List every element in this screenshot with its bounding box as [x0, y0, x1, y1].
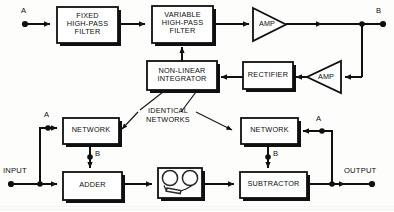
dot-tap-b-right [265, 154, 271, 160]
dot-junction-b-tap [359, 21, 365, 27]
wire-input-tap-to-network-left [40, 128, 57, 184]
label-nonlinear-integrator: NON-LINEAR INTEGRATOR [147, 67, 217, 83]
label-adder: ADDER [63, 181, 122, 189]
dot-terminal-a-top [22, 21, 28, 27]
label-network-left: NETWORK [63, 126, 119, 134]
dot-terminal-input [8, 181, 14, 187]
label-amp-top: AMP [253, 20, 281, 28]
scan-artifact [0, 206, 394, 207]
arrow-to-network-right [196, 112, 232, 130]
dot-terminal-b-top [380, 21, 386, 27]
dot-terminal-output [369, 181, 375, 187]
label-terminal-output: OUTPUT [344, 167, 376, 176]
label-tap-b-left: B [95, 150, 100, 159]
label-subtractor: SUBTRACTOR [240, 180, 307, 188]
label-terminal-input: INPUT [3, 167, 27, 176]
label-terminal-b-top: B [376, 7, 381, 16]
label-variable-hpf: VARIABLE HIGH-PASS FILTER [152, 11, 213, 36]
label-network-right: NETWORK [241, 126, 298, 134]
block-diagram: FIXED HIGH-PASS FILTER VARIABLE HIGH-PAS… [0, 0, 394, 212]
label-tap-a-left: A [44, 111, 49, 120]
label-tap-b-right: B [273, 150, 278, 159]
label-amp-feedback: AMP [312, 73, 340, 81]
label-rectifier: RECTIFIER [243, 71, 293, 79]
dot-tap-a-right [319, 128, 325, 134]
dot-junction-output-tap [329, 181, 335, 187]
scan-artifact [0, 209, 394, 210]
dot-tap-a-left [45, 125, 51, 131]
dot-tap-b-left [87, 154, 93, 160]
arrow-to-network-left [122, 112, 138, 129]
label-terminal-a-top: A [21, 7, 26, 16]
label-identical-networks: IDENTICAL NETWORKS [137, 106, 199, 124]
dot-junction-input-tap [37, 181, 43, 187]
label-tap-a-right: A [316, 115, 321, 124]
label-fixed-hpf: FIXED HIGH-PASS FILTER [57, 12, 118, 37]
